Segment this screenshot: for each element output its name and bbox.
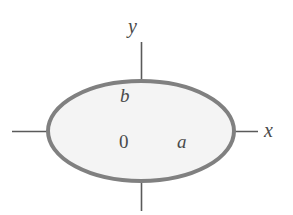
semi-minor-axis-label-b: b (120, 86, 130, 105)
ellipse-diagram-svg (0, 0, 293, 215)
y-axis-label: y (128, 16, 137, 36)
x-axis-label: x (264, 120, 273, 140)
origin-label: 0 (119, 132, 129, 151)
ellipse-diagram-canvas: y x b 0 a (0, 0, 293, 215)
semi-major-axis-label-a: a (177, 132, 187, 151)
